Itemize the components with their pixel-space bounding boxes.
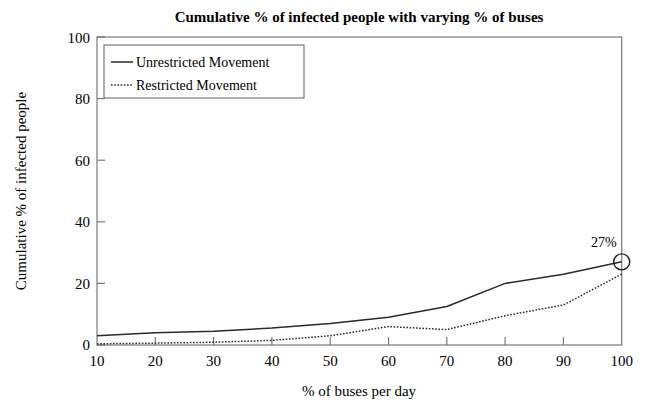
chart-figure: Cumulative % of infected people with var… [0, 0, 669, 411]
x-tick-label-40: 40 [264, 353, 279, 369]
x-tick-label-100: 100 [610, 353, 633, 369]
annotation-label-27-percent: 27% [591, 235, 617, 250]
x-tick-label-20: 20 [148, 353, 163, 369]
chart-title: Cumulative % of infected people with var… [175, 9, 544, 25]
legend-label-restricted-movement: Restricted Movement [136, 78, 257, 93]
x-tick-label-70: 70 [439, 353, 454, 369]
legend-label-unrestricted-movement: Unrestricted Movement [136, 55, 269, 70]
y-tick-label-20: 20 [75, 276, 90, 292]
y-tick-label-80: 80 [75, 91, 90, 107]
x-axis-label: % of buses per day [302, 383, 417, 399]
y-tick-label-60: 60 [75, 153, 90, 169]
x-tick-label-90: 90 [556, 353, 571, 369]
y-axis-label: Cumulative % of infected people [13, 92, 29, 291]
y-tick-label-0: 0 [83, 337, 91, 353]
y-tick-label-40: 40 [75, 214, 90, 230]
series-line-restricted-movement [97, 274, 622, 344]
x-tick-label-80: 80 [498, 353, 513, 369]
x-tick-label-10: 10 [90, 353, 105, 369]
y-tick-label-100: 100 [68, 30, 91, 46]
x-tick-label-30: 30 [206, 353, 221, 369]
series-line-unrestricted-movement [97, 262, 622, 336]
chart-svg: Cumulative % of infected people with var… [0, 0, 669, 411]
x-tick-label-50: 50 [323, 353, 338, 369]
chart-legend: Unrestricted Movement Restricted Movemen… [104, 45, 304, 98]
x-tick-label-60: 60 [381, 353, 396, 369]
